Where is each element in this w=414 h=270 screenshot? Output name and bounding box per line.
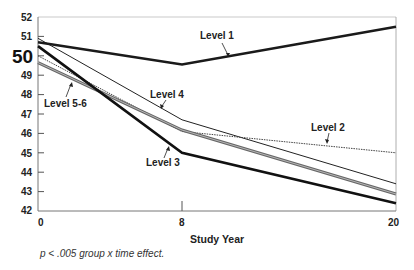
y-tick-43: 43 (21, 186, 33, 197)
x-tick-20: 20 (388, 217, 400, 228)
label-level-4: Level 4 (150, 89, 184, 100)
y-tick-52: 52 (21, 12, 33, 23)
arrowhead-level-2 (325, 139, 329, 144)
x-tick-8: 8 (179, 217, 185, 228)
y-axis-labels: 52 51 50 49 48 47 46 45 44 43 42 (12, 12, 33, 216)
x-axis-title: Study Year (190, 233, 244, 245)
label-level-1: Level 1 (200, 30, 234, 41)
series-level-2 (38, 56, 396, 153)
y-tick-47: 47 (21, 109, 33, 120)
y-tick-51: 51 (21, 31, 33, 42)
line-chart: 52 51 50 49 48 47 46 45 44 43 42 0 8 20 … (0, 0, 414, 270)
y-tick-46: 46 (21, 128, 33, 139)
label-level-3: Level 3 (146, 157, 180, 168)
leader-level-4 (162, 100, 166, 106)
plot-frame (38, 17, 396, 211)
y-tick-49: 49 (21, 70, 33, 81)
y-tick-50: 50 (12, 46, 33, 67)
x-axis-labels: 0 8 20 Study Year (38, 217, 400, 245)
arrowhead-level-3 (166, 146, 170, 151)
y-tick-45: 45 (21, 148, 33, 159)
y-tick-48: 48 (21, 89, 33, 100)
footnote: p < .005 group x time effect. (39, 248, 164, 259)
y-tick-42: 42 (21, 205, 33, 216)
y-tick-44: 44 (21, 167, 33, 178)
label-level-2: Level 2 (311, 122, 345, 133)
x-tick-0: 0 (38, 217, 44, 228)
arrowhead-level-5-6 (69, 82, 73, 87)
label-level-5-6: Level 5-6 (44, 98, 87, 109)
y-axis-ticks (38, 36, 44, 191)
